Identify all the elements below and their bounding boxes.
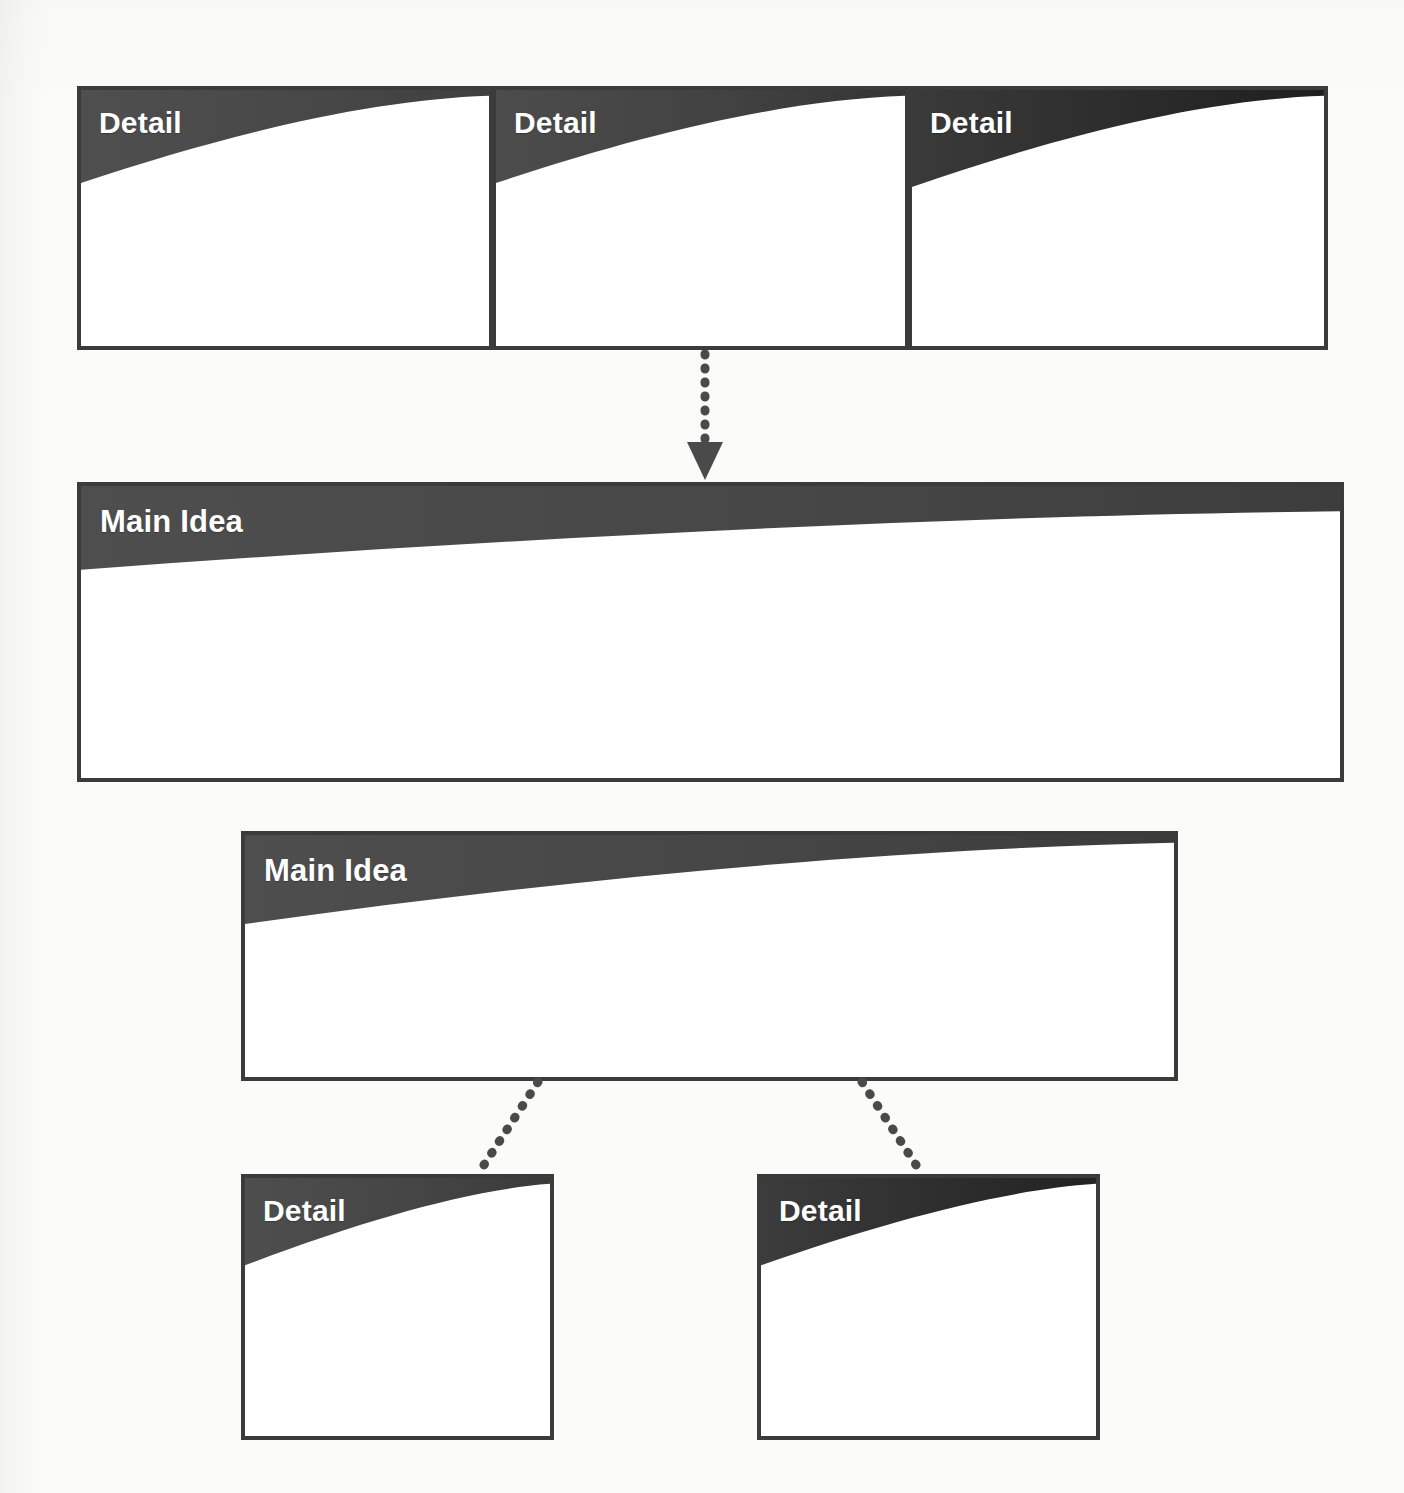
detail-box-label: Detail	[930, 106, 1013, 140]
connector-top-to-main-idea	[660, 350, 750, 482]
detail-box-label: Detail	[99, 106, 182, 140]
detail-box-top-2[interactable]: Detail	[492, 86, 909, 350]
main-idea-box-secondary[interactable]: Main Idea	[241, 831, 1178, 1081]
connector-main-idea-to-details	[440, 1078, 960, 1178]
detail-box-bottom-1[interactable]: Detail	[241, 1174, 554, 1440]
main-idea-box-primary[interactable]: Main Idea	[77, 482, 1344, 782]
banner-curve-shape	[81, 486, 1340, 778]
main-idea-box-label: Main Idea	[100, 504, 243, 540]
detail-box-bottom-2[interactable]: Detail	[757, 1174, 1100, 1440]
detail-box-top-1[interactable]: Detail	[77, 86, 493, 350]
detail-box-label: Detail	[263, 1194, 346, 1228]
detail-box-top-3[interactable]: Detail	[908, 86, 1328, 350]
connector-left-branch	[478, 1082, 538, 1174]
connector-right-branch	[862, 1082, 922, 1174]
detail-box-label: Detail	[779, 1194, 862, 1228]
organizer-canvas: Detail Detail	[0, 0, 1404, 1493]
detail-box-label: Detail	[514, 106, 597, 140]
main-idea-box-label: Main Idea	[264, 853, 407, 889]
